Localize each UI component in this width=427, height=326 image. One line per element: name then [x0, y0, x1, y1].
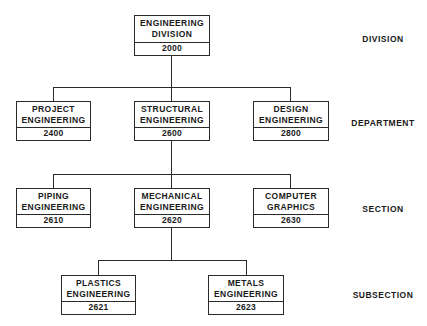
node-engineering-division: ENGINEERINGDIVISION 2000: [134, 15, 210, 56]
node-name-line2: ENGINEERING: [22, 115, 86, 126]
node-metals-engineering: METALSENGINEERING 2623: [208, 275, 284, 315]
node-code: 2400: [17, 127, 90, 140]
node-name-line2: ENGINEERING: [140, 202, 204, 213]
node-name-line1: PIPING: [38, 191, 69, 202]
node-code: 2000: [135, 42, 209, 55]
node-name-line2: ENGINEERING: [259, 115, 323, 126]
node-project-engineering: PROJECTENGINEERING 2400: [16, 101, 91, 141]
node-piping-engineering: PIPINGENGINEERING 2610: [16, 188, 91, 228]
node-plastics-engineering: PLASTICSENGINEERING 2621: [61, 275, 136, 315]
node-name-line2: ENGINEERING: [22, 202, 86, 213]
node-name-line1: MECHANICAL: [141, 191, 202, 202]
node-name-line1: ENGINEERING: [140, 18, 204, 29]
level-label-division: DIVISION: [333, 34, 427, 44]
connector: [290, 87, 291, 101]
node-code: 2630: [254, 214, 328, 227]
node-mechanical-engineering: MECHANICALENGINEERING 2620: [134, 188, 210, 228]
node-code: 2623: [209, 301, 283, 314]
node-name-line2: DIVISION: [152, 29, 193, 40]
level-label-subsection: SUBSECTION: [333, 290, 427, 300]
connector: [171, 140, 172, 188]
node-code: 2620: [135, 214, 209, 227]
connector: [53, 174, 291, 175]
connector: [53, 174, 54, 188]
node-code: 2600: [135, 127, 209, 140]
node-name-line2: ENGINEERING: [140, 115, 204, 126]
node-design-engineering: DESIGNENGINEERING 2800: [253, 101, 329, 141]
connector: [53, 87, 54, 101]
connector: [171, 55, 172, 101]
level-label-section: SECTION: [333, 204, 427, 214]
node-name-line2: ENGINEERING: [67, 289, 131, 300]
node-name-line1: STRUCTURAL: [141, 104, 203, 115]
node-code: 2621: [62, 301, 135, 314]
connector: [246, 260, 247, 275]
node-name-line1: DESIGN: [274, 104, 309, 115]
node-structural-engineering: STRUCTURALENGINEERING 2600: [134, 101, 210, 141]
node-name-line2: GRAPHICS: [267, 202, 315, 213]
node-name-line1: PLASTICS: [76, 278, 121, 289]
node-name-line1: COMPUTER: [265, 191, 317, 202]
node-name-line1: PROJECT: [32, 104, 75, 115]
connector: [98, 260, 99, 275]
connector: [53, 87, 291, 88]
node-name-line2: ENGINEERING: [214, 289, 278, 300]
node-code: 2800: [254, 127, 328, 140]
connector: [171, 227, 172, 260]
connector: [290, 174, 291, 188]
node-name-line1: METALS: [228, 278, 265, 289]
node-computer-graphics: COMPUTERGRAPHICS 2630: [253, 188, 329, 228]
connector: [98, 260, 247, 261]
level-label-department: DEPARTMENT: [333, 118, 427, 128]
node-code: 2610: [17, 214, 90, 227]
